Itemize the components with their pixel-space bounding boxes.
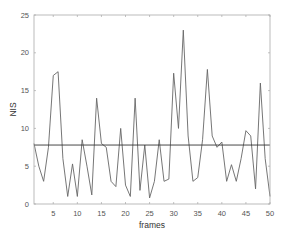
data-series <box>34 30 270 198</box>
x-tick-label: 35 <box>194 209 202 218</box>
x-tick-label: 45 <box>242 209 250 218</box>
nis-series-line <box>34 30 270 198</box>
x-tick-label: 20 <box>121 209 129 218</box>
x-axis-label: frames <box>139 220 165 230</box>
x-tick-label: 40 <box>218 209 226 218</box>
y-tick-label: 5 <box>25 162 29 171</box>
y-tick-label: 25 <box>21 11 29 20</box>
y-axis-label: NIS <box>8 102 18 117</box>
x-tick-label: 10 <box>73 209 81 218</box>
tick-labels: 51015202530354045500510152025 <box>21 11 275 219</box>
y-tick-label: 10 <box>21 124 29 133</box>
y-tick-label: 0 <box>25 200 29 209</box>
y-tick-label: 15 <box>21 86 29 95</box>
x-tick-label: 15 <box>97 209 105 218</box>
y-tick-label: 20 <box>21 48 29 57</box>
nis-line-chart: 51015202530354045500510152025 frames NIS <box>0 0 288 242</box>
x-tick-label: 25 <box>145 209 153 218</box>
x-tick-label: 30 <box>170 209 178 218</box>
x-tick-label: 5 <box>51 209 55 218</box>
x-tick-label: 50 <box>266 209 274 218</box>
